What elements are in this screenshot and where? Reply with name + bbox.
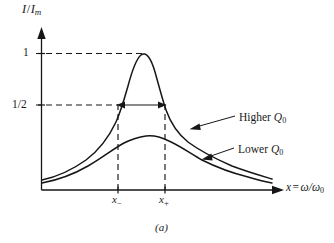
x-axis-equals: =	[291, 181, 301, 193]
y-axis-denominator: I	[31, 2, 35, 16]
x-axis-label: x=ω/ω0	[286, 182, 324, 195]
x-axis-omega-subscript: 0	[320, 186, 324, 195]
lower-q-annotation: Lower Q0	[238, 144, 283, 157]
lower-q-symbol: Q	[271, 143, 279, 155]
xtick-label-x-plus: x+	[159, 194, 169, 207]
y-axis-label: ̂I/̂Im	[22, 3, 41, 17]
xtick-plus-subscript: +	[164, 198, 169, 208]
lower-q-prefix: Lower	[238, 143, 271, 155]
high-q-curve	[42, 54, 272, 180]
lower-q-leader-line	[208, 148, 234, 157]
x-axis-arrowhead	[272, 186, 284, 194]
tick-marks-group	[38, 54, 165, 194]
higher-q-subscript: 0	[282, 116, 286, 125]
higher-q-prefix: Higher	[239, 111, 274, 123]
figure-caption: (a)	[155, 222, 168, 233]
y-axis-denominator-subscript: m	[35, 7, 42, 17]
higher-q-leader-arrowhead	[190, 123, 201, 130]
ytick-label-one: 1	[23, 47, 29, 59]
lower-q-subscript: 0	[279, 148, 283, 157]
x-axis-omega-denominator: ω	[312, 181, 320, 193]
y-axis-numerator: I	[22, 2, 26, 16]
resonance-figure: ̂I/̂Im x=ω/ω0 1 1/2 x− x+ Higher Q0 Lowe…	[0, 0, 334, 243]
xtick-minus-subscript: −	[117, 198, 122, 208]
higher-q-annotation: Higher Q0	[239, 112, 286, 125]
higher-q-symbol: Q	[274, 111, 282, 123]
leader-lines-group	[190, 116, 236, 160]
x-axis-omega-numerator: ω	[301, 181, 309, 193]
xtick-label-x-minus: x−	[112, 194, 122, 207]
y-axis-arrowhead	[37, 27, 45, 39]
bandwidth-arrow	[117, 102, 167, 109]
higher-q-leader-line	[196, 116, 235, 127]
curves-group	[42, 54, 272, 183]
guide-lines-group	[36, 54, 165, 191]
ytick-label-half: 1/2	[12, 99, 27, 111]
